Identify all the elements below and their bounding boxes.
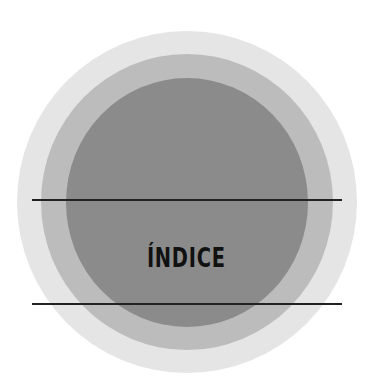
index-title: ÍNDICE xyxy=(52,240,320,276)
top-divider-line xyxy=(32,199,342,201)
inner-circle xyxy=(66,78,308,327)
bottom-divider-line xyxy=(32,303,342,305)
